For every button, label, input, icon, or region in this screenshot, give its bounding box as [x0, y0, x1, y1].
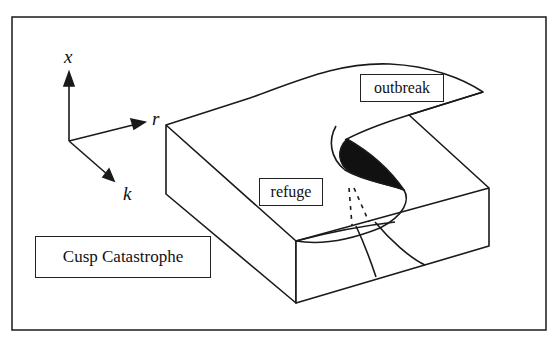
diagram-title: Cusp Catastrophe: [63, 247, 183, 267]
refuge-label: refuge: [259, 178, 323, 206]
axis-label-x: x: [64, 46, 72, 68]
outbreak-label-text: outbreak: [374, 79, 430, 97]
axes-icon: [64, 72, 145, 181]
axis-label-r: r: [152, 108, 159, 130]
diagram-drawing: [0, 0, 557, 343]
axis-label-k: k: [123, 183, 131, 205]
cusp-catastrophe-diagram: x r k outbreak refuge Cusp Catastrophe: [0, 0, 557, 343]
refuge-label-text: refuge: [271, 183, 312, 201]
outbreak-label: outbreak: [360, 74, 444, 102]
diagram-title-box: Cusp Catastrophe: [35, 236, 211, 278]
